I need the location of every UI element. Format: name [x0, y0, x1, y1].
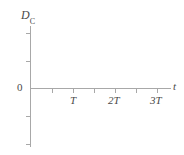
x-tick-label-2T: 2T — [108, 95, 120, 106]
y-axis-label: DC — [21, 9, 35, 24]
x-tick-label-T: T — [70, 95, 76, 106]
origin-label: 0 — [17, 82, 23, 93]
x-axis-label: t — [173, 81, 176, 92]
y-axis-label-subscript: C — [30, 17, 35, 26]
y-axis-label-symbol: D — [21, 8, 30, 22]
figure-container: DC 0 T 2T 3T t — [0, 0, 184, 155]
x-tick-label-3T: 3T — [150, 95, 162, 106]
